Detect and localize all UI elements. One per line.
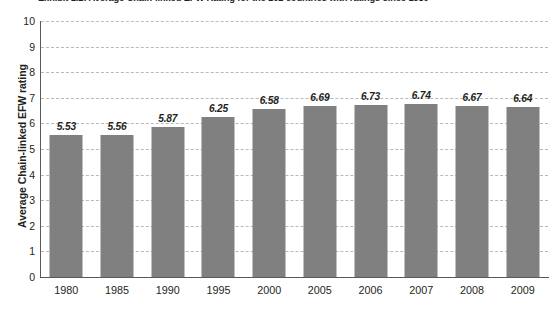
bar-value-label: 6.74 [412, 90, 431, 101]
chart-title: Exhibit 1.2: Average Chain-linked EFW Ra… [38, 0, 553, 3]
y-axis-tick-label: 9 [7, 41, 35, 53]
x-axis-tick-label: 2000 [257, 284, 281, 296]
bar[interactable] [101, 135, 134, 277]
bar[interactable] [151, 127, 184, 277]
bar-value-label: 6.64 [513, 93, 532, 104]
bar-group[interactable]: 5.56 [92, 21, 143, 277]
x-axis-tick-label: 2007 [409, 284, 433, 296]
bar-value-label: 5.56 [108, 121, 127, 132]
bar-value-label: 5.53 [57, 121, 76, 132]
x-axis-tick-label: 1980 [54, 284, 78, 296]
x-axis-tick-label: 1990 [156, 284, 180, 296]
x-axis-tick-label: 2008 [460, 284, 484, 296]
bar[interactable] [202, 117, 235, 277]
bar-value-label: 6.69 [310, 92, 329, 103]
bar[interactable] [354, 105, 387, 277]
x-axis-line [40, 277, 549, 278]
x-axis-tick-label: 2005 [308, 284, 332, 296]
bar[interactable] [303, 106, 336, 277]
bar-group[interactable]: 5.87 [142, 21, 193, 277]
bar-group[interactable]: 6.74 [396, 21, 447, 277]
y-axis-tick-label: 1 [7, 245, 35, 257]
bar-group[interactable]: 5.53 [41, 21, 92, 277]
y-axis-tick-label: 10 [7, 15, 35, 27]
y-axis-tick-labels: 012345678910 [0, 21, 35, 277]
bar-group[interactable]: 6.67 [447, 21, 498, 277]
bar-group[interactable]: 6.69 [295, 21, 346, 277]
y-axis-tick-label: 8 [7, 66, 35, 78]
bar[interactable] [253, 109, 286, 277]
bar-group[interactable]: 6.25 [193, 21, 244, 277]
y-axis-tick-label: 0 [7, 271, 35, 283]
bar[interactable] [455, 106, 488, 277]
x-axis-tick-label: 1995 [206, 284, 230, 296]
bar[interactable] [50, 135, 83, 277]
bars-layer: 5.535.565.876.256.586.696.736.746.676.64 [41, 21, 548, 277]
y-axis-tick-label: 4 [7, 169, 35, 181]
bar[interactable] [506, 107, 539, 277]
bar[interactable] [405, 104, 438, 277]
x-axis-tick-label: 1985 [105, 284, 129, 296]
chart-container: Exhibit 1.2: Average Chain-linked EFW Ra… [0, 0, 557, 314]
y-axis-tick-label: 3 [7, 194, 35, 206]
y-axis-tick-label: 7 [7, 92, 35, 104]
x-axis-tick-labels: 1980198519901995200020052006200720082009 [41, 284, 548, 304]
bar-value-label: 6.73 [361, 91, 380, 102]
y-axis-tick-label: 6 [7, 117, 35, 129]
bar-value-label: 6.25 [209, 103, 228, 114]
bar-value-label: 6.58 [260, 95, 279, 106]
x-axis-tick-label: 2009 [511, 284, 535, 296]
bar-value-label: 6.67 [462, 92, 481, 103]
bar-group[interactable]: 6.64 [497, 21, 548, 277]
bar-group[interactable]: 6.58 [244, 21, 295, 277]
y-axis-tick-label: 2 [7, 220, 35, 232]
bar-value-label: 5.87 [158, 113, 177, 124]
y-axis-tick-label: 5 [7, 143, 35, 155]
x-axis-tick-label: 2006 [359, 284, 383, 296]
bar-group[interactable]: 6.73 [345, 21, 396, 277]
